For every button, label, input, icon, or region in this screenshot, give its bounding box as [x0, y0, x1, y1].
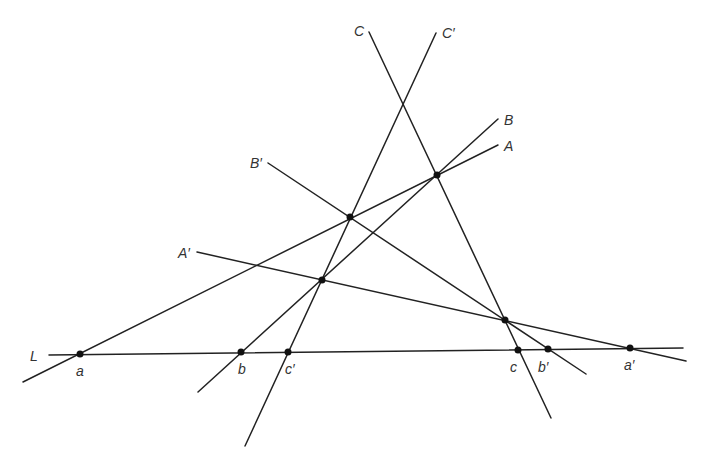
point-ACp — [347, 214, 354, 221]
lines-group — [23, 32, 686, 446]
line-label-A: A — [503, 138, 513, 154]
line-Ap — [197, 252, 686, 361]
line-Cp — [245, 33, 436, 446]
point-label-a: a — [76, 363, 84, 379]
point-label-b: b — [238, 361, 246, 377]
point-CBp — [502, 317, 509, 324]
point-label-c: c — [510, 359, 517, 375]
line-Bp — [268, 163, 586, 374]
line-label-C: C — [354, 23, 365, 39]
line-label-L: L — [30, 348, 38, 364]
line-label-B: B — [504, 112, 513, 128]
line-A — [23, 145, 498, 382]
point-cp — [285, 349, 292, 356]
points-group — [77, 172, 634, 358]
line-label-Ap: A′ — [177, 245, 191, 261]
point-label-cp: c′ — [285, 361, 296, 377]
point-BAp — [319, 277, 326, 284]
line-label-Cp: C′ — [442, 25, 456, 41]
point-label-ap: a′ — [624, 357, 636, 373]
line-L — [49, 348, 683, 355]
projective-diagram: LCC′BAB′A′abc′cb′a′ — [0, 0, 708, 473]
line-C — [369, 32, 551, 418]
point-b — [238, 349, 245, 356]
point-bp — [545, 346, 552, 353]
point-a — [77, 351, 84, 358]
point-ap — [627, 345, 634, 352]
point-c — [515, 347, 522, 354]
point-label-bp: b′ — [538, 359, 550, 375]
labels-group: LCC′BAB′A′abc′cb′a′ — [30, 23, 636, 379]
line-label-Bp: B′ — [250, 155, 263, 171]
point-AB — [434, 172, 441, 179]
